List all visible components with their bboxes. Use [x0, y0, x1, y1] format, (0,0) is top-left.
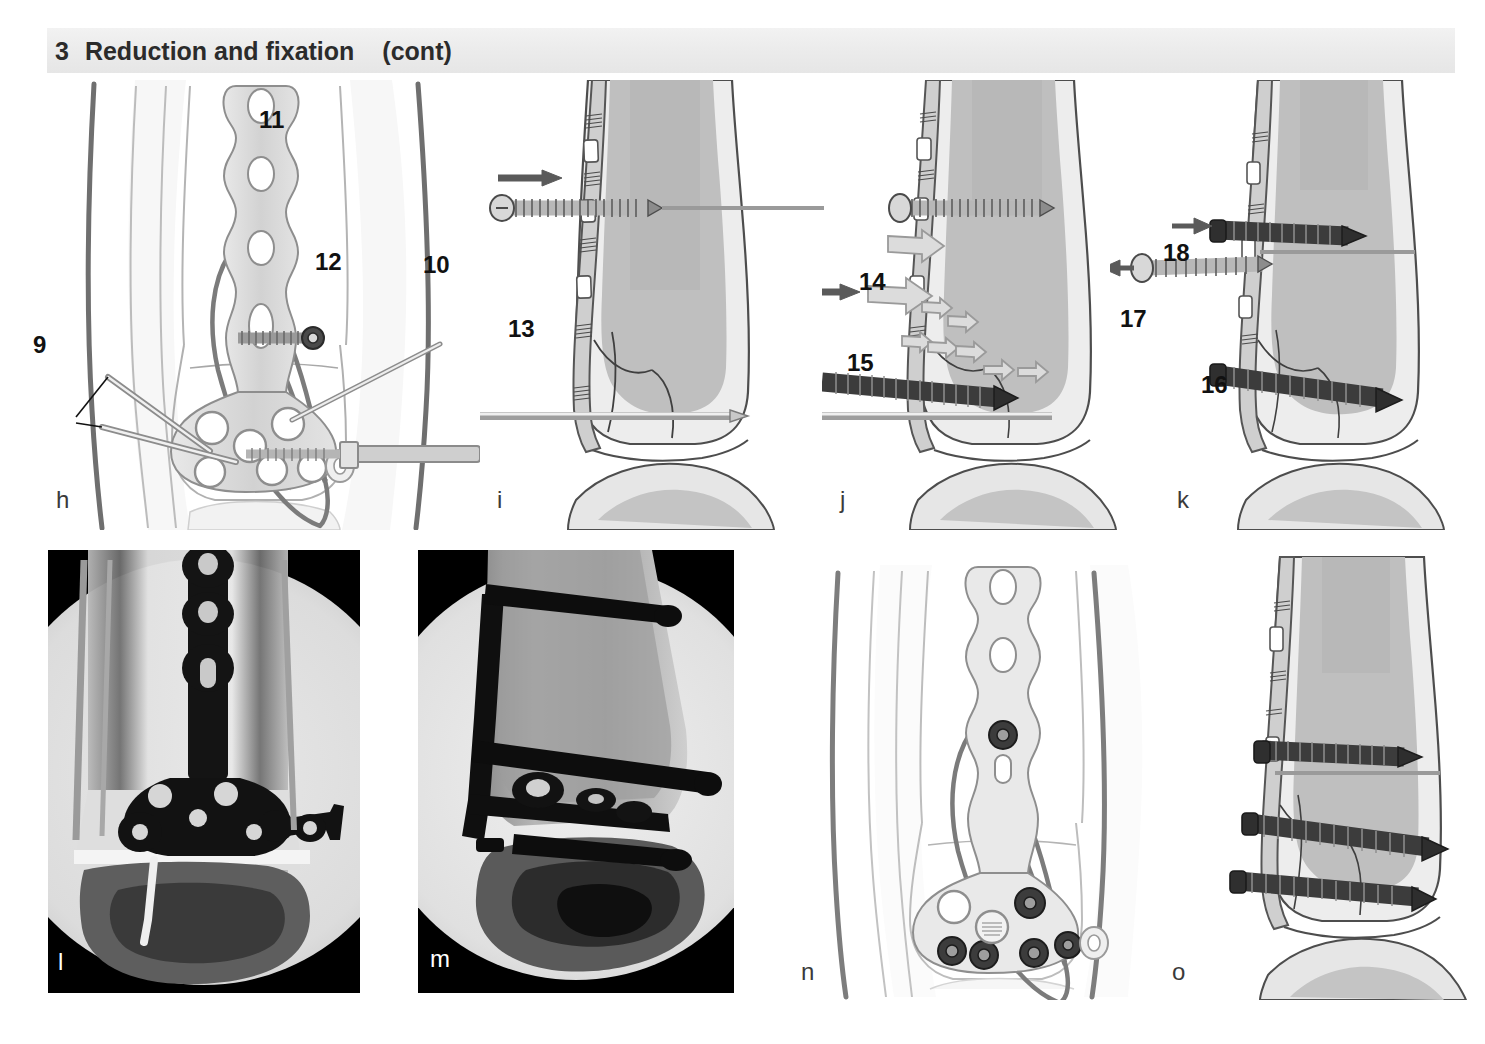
- panel-label-k: k: [1177, 486, 1189, 514]
- callout-9: 9: [33, 333, 46, 357]
- radiograph-m: [418, 550, 734, 993]
- figure-panel-h: [40, 80, 480, 530]
- callout-17: 17: [1120, 307, 1147, 331]
- header-text-group: 3 Reduction and fixation (cont): [55, 36, 452, 65]
- callout-10: 10: [423, 253, 450, 277]
- arrow-icon-17: [1110, 260, 1134, 276]
- figure-panel-o: [1140, 545, 1485, 1000]
- panel-label-i: i: [497, 486, 502, 514]
- callout-13: 13: [508, 317, 535, 341]
- arrow-icon-j: [822, 284, 860, 300]
- panel-label-l: l: [58, 948, 63, 976]
- figure-panel-i: [480, 80, 825, 530]
- panel-label-h: h: [56, 486, 69, 514]
- arrow-icon-18: [1172, 218, 1212, 234]
- illustration-h: [40, 80, 480, 530]
- figure-panel-m: m: [418, 550, 734, 993]
- callout-16: 16: [1201, 373, 1228, 397]
- panel-label-o: o: [1172, 958, 1185, 986]
- page-title: Reduction and fixation: [85, 36, 354, 65]
- callout-11: 11: [259, 108, 284, 132]
- plate-graphic: [171, 86, 354, 492]
- figure-panel-k: [1110, 80, 1485, 530]
- figure-panel-l: l: [48, 550, 360, 993]
- illustration-o: [1140, 545, 1485, 1000]
- section-header-banner: 3 Reduction and fixation (cont): [47, 28, 1455, 73]
- illustration-n: [790, 545, 1150, 1000]
- continued-marker: (cont): [382, 36, 451, 65]
- illustration-i: [480, 80, 825, 530]
- illustration-k: [1110, 80, 1485, 530]
- panel-label-m: m: [430, 945, 450, 973]
- section-number: 3: [55, 36, 69, 65]
- callout-14: 14: [859, 270, 886, 294]
- figure-panel-n: [790, 545, 1150, 1000]
- radiograph-l: [48, 550, 360, 993]
- callout-18: 18: [1163, 241, 1190, 265]
- panel-label-n: n: [801, 958, 814, 986]
- arrow-icon-i: [498, 170, 562, 186]
- panel-label-j: j: [840, 486, 845, 514]
- callout-12: 12: [315, 250, 342, 274]
- callout-15: 15: [847, 351, 874, 375]
